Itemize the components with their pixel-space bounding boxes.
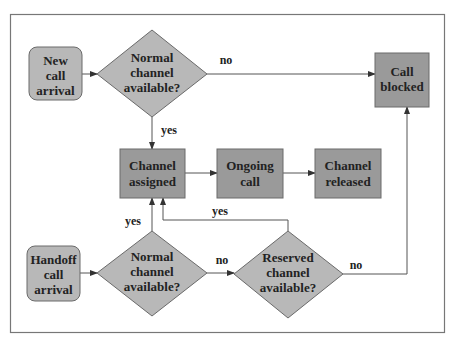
node-decision-normal-top: Normal channel available?	[97, 30, 207, 117]
node-label: channel	[266, 265, 310, 280]
node-label: arrival	[36, 83, 75, 98]
node-label: call	[46, 68, 66, 83]
node-label: Normal	[131, 50, 174, 65]
node-label: Call	[390, 64, 414, 79]
edge-label-bottom-no: no	[216, 253, 229, 267]
node-label: available?	[124, 80, 180, 95]
flowchart: New call arrival Normal channel availabl…	[0, 0, 457, 343]
node-new-call-arrival: New call arrival	[29, 47, 82, 100]
node-label: Normal	[131, 249, 174, 264]
edge-label-bottom-yes: yes	[125, 214, 141, 228]
edge-label-reserved-no: no	[350, 258, 363, 272]
node-label: Handoff	[30, 252, 77, 267]
node-label: call	[44, 267, 64, 282]
node-handoff-call-arrival: Handoff call arrival	[27, 246, 80, 301]
node-channel-released: Channel released	[315, 149, 381, 198]
node-label: New	[43, 53, 68, 68]
node-decision-normal-bottom: Normal channel available?	[97, 231, 207, 316]
node-label: available?	[260, 280, 316, 295]
node-label: available?	[124, 279, 180, 294]
edge-label-reserved-yes: yes	[212, 204, 228, 218]
node-label: Channel	[129, 158, 176, 173]
node-label: channel	[130, 65, 174, 80]
node-label: channel	[130, 264, 174, 279]
edge-label-top-no: no	[220, 53, 233, 67]
node-label: blocked	[380, 79, 424, 94]
node-label: assigned	[129, 174, 177, 189]
node-decision-reserved: Reserved channel available?	[234, 231, 343, 318]
node-ongoing-call: Ongoing call	[217, 149, 283, 198]
node-label: Ongoing	[226, 158, 274, 173]
node-label: arrival	[34, 282, 73, 297]
node-label: call	[240, 174, 260, 189]
node-label: released	[325, 174, 371, 189]
node-label: Channel	[325, 158, 372, 173]
node-call-blocked: Call blocked	[375, 53, 429, 107]
node-channel-assigned: Channel assigned	[120, 149, 185, 198]
edge-label-top-yes: yes	[161, 123, 177, 137]
node-label: Reserved	[262, 250, 314, 265]
